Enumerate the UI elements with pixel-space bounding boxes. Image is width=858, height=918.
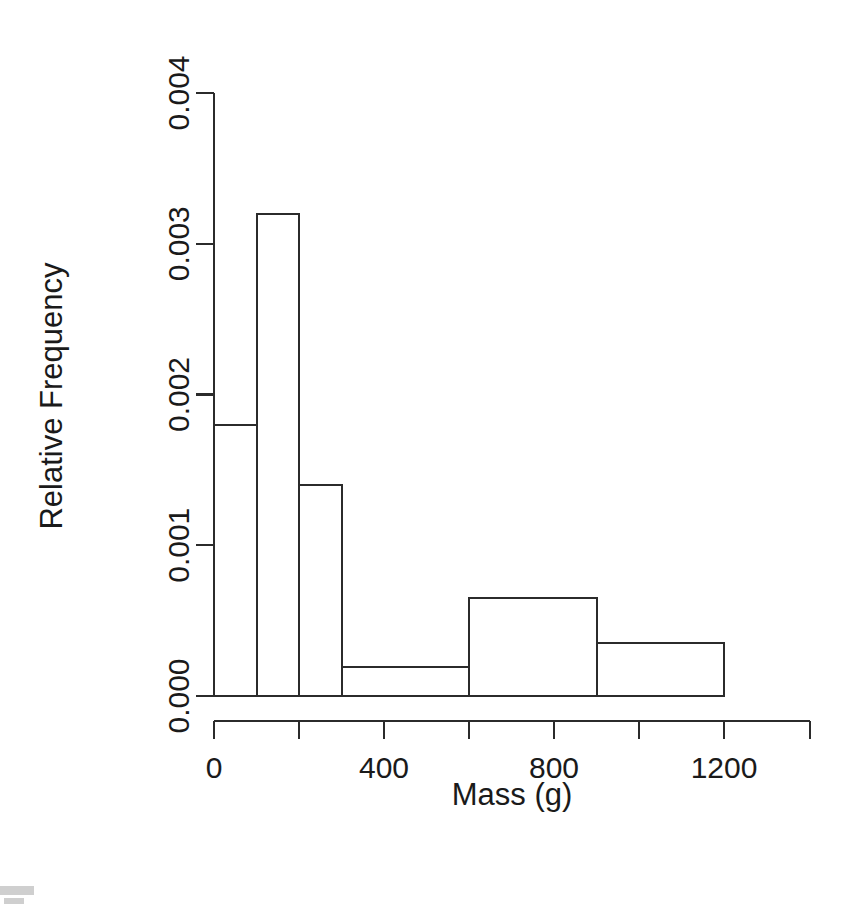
x-axis-ticks bbox=[214, 721, 810, 739]
histogram-bar bbox=[469, 598, 597, 696]
histogram-bar bbox=[214, 425, 257, 696]
relative-frequency-histogram: 0.0000.0010.0020.0030.004 04008001200 Ma… bbox=[0, 0, 858, 918]
y-axis-tick-labels: 0.0000.0010.0020.0030.004 bbox=[162, 55, 195, 733]
x-tick-label: 0 bbox=[206, 751, 223, 784]
histogram-bar bbox=[597, 643, 725, 696]
y-tick-label: 0.004 bbox=[162, 55, 195, 130]
scan-artifact bbox=[0, 886, 34, 895]
histogram-bar bbox=[257, 214, 300, 696]
histogram-figure: 0.0000.0010.0020.0030.004 04008001200 Ma… bbox=[0, 0, 858, 918]
y-tick-label: 0.000 bbox=[162, 658, 195, 733]
histogram-bars bbox=[214, 214, 724, 696]
y-axis-title: Relative Frequency bbox=[34, 262, 69, 530]
histogram-bar bbox=[342, 667, 470, 696]
y-axis-ticks bbox=[196, 93, 214, 696]
y-tick-label: 0.002 bbox=[162, 357, 195, 432]
x-tick-label: 1200 bbox=[691, 751, 758, 784]
x-axis-title: Mass (g) bbox=[452, 777, 573, 812]
y-tick-label: 0.003 bbox=[162, 206, 195, 281]
histogram-bar bbox=[299, 485, 342, 696]
scan-artifact-secondary bbox=[4, 898, 24, 904]
y-tick-label: 0.001 bbox=[162, 508, 195, 583]
x-tick-label: 400 bbox=[359, 751, 409, 784]
